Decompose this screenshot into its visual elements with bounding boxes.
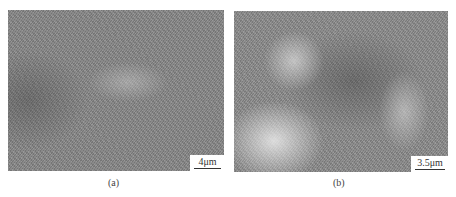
scale-bar-b-label: 3.5μm bbox=[415, 157, 445, 168]
scale-bar-b: 3.5μm bbox=[411, 156, 448, 172]
scale-bar-a: 4μm bbox=[190, 155, 224, 171]
scale-bar-a-label: 4μm bbox=[194, 156, 221, 167]
micrograph-a: 4μm bbox=[8, 10, 224, 171]
panel-b-caption: (b) bbox=[333, 177, 345, 188]
scale-bar-a-line bbox=[194, 168, 221, 169]
panel-a-caption: (a) bbox=[108, 177, 119, 188]
micrograph-b: 3.5μm bbox=[234, 11, 448, 172]
scale-bar-b-line bbox=[415, 169, 445, 170]
